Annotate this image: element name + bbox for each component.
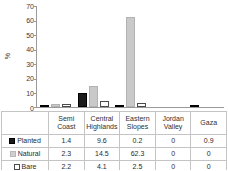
cell-bare-central-highlands: 4.1 [84,161,120,171]
y-tick-label-40: 40 [16,46,34,53]
cell-planted-eastern-slopes: 0.2 [120,135,156,148]
bar-bare-eastern-slopes [137,103,146,107]
cell-bare-jordan-valley: 0 [155,161,191,171]
table-header-gaza: Gaza [191,112,227,135]
y-axis-tick-labels: 70 60 50 40 30 20 10 0 [16,6,34,108]
table-header-line-2: Slopes [120,123,155,132]
bar-natural-eastern-slopes [126,17,135,107]
bar-natural-semi-coast [51,104,60,107]
y-tick-label-50: 50 [16,32,34,39]
bar-chart: % 70 60 50 40 30 20 10 0 [0,0,228,112]
table-header-line-1: Gaza [191,119,226,128]
cell-natural-jordan-valley: 0 [155,148,191,161]
natural-swatch-icon [10,151,16,157]
table-header-line-1: Central [85,115,120,124]
table-header-line-1: Jordan [156,115,191,124]
bare-swatch-icon [14,164,20,170]
legend-cell-bare: Bare [2,161,49,171]
table-header-line-2: Highlands [85,123,120,132]
y-tick-label-30: 30 [16,61,34,68]
y-tick-label-20: 20 [16,75,34,82]
y-tick-label-60: 60 [16,17,34,24]
table-header-eastern-slopes: Eastern Slopes [120,112,156,135]
legend-label-bare: Bare [22,163,37,170]
table-header-line-1: Semi [49,115,84,124]
table-header-jordan-valley: Jordan Valley [155,112,191,135]
x-axis-line [36,107,224,108]
cell-planted-jordan-valley: 0 [155,135,191,148]
chart-page: % 70 60 50 40 30 20 10 0 [0,0,228,170]
table-header-central-highlands: Central Highlands [84,112,120,135]
planted-swatch-icon [9,138,15,144]
y-tick-label-10: 10 [16,90,34,97]
legend-label-planted: Planted [17,137,41,144]
table-row: Bare 2.2 4.1 2.5 0 0 [2,161,227,171]
legend-label-natural: Natural [18,150,41,157]
cell-natural-eastern-slopes: 62.3 [120,148,156,161]
table-header-row: Semi Coast Central Highlands Eastern Slo… [2,112,227,135]
cell-bare-semi-coast: 2.2 [49,161,85,171]
table-row: Planted 1.4 9.6 0.2 0 0.9 [2,135,227,148]
bar-group-gaza [187,6,224,107]
cell-bare-gaza: 0 [191,161,227,171]
bar-group-eastern-slopes [112,6,149,107]
bar-group-jordan-valley [149,6,186,107]
table-corner-cell [2,112,49,135]
bar-natural-central-highlands [89,86,98,107]
table-header-line-1: Eastern [120,115,155,124]
bar-groups [37,6,224,107]
bar-planted-eastern-slopes [115,105,124,107]
y-tick-label-70: 70 [16,3,34,10]
table-header-line-2: Coast [49,123,84,132]
bar-group-central-highlands [74,6,111,107]
bar-planted-gaza [190,105,199,107]
legend-cell-planted: Planted [2,135,49,148]
data-table: Semi Coast Central Highlands Eastern Slo… [1,111,227,170]
table-header-semi-coast: Semi Coast [49,112,85,135]
legend-cell-natural: Natural [2,148,49,161]
bar-planted-semi-coast [40,105,49,107]
bar-planted-central-highlands [78,93,87,107]
plot-area [36,6,224,108]
cell-natural-central-highlands: 14.5 [84,148,120,161]
bar-bare-central-highlands [100,101,109,107]
cell-planted-semi-coast: 1.4 [49,135,85,148]
table-header-line-2: Valley [156,123,191,132]
table-row: Natural 2.3 14.5 62.3 0 0 [2,148,227,161]
cell-planted-gaza: 0.9 [191,135,227,148]
cell-natural-gaza: 0 [191,148,227,161]
bar-bare-semi-coast [62,104,71,107]
cell-planted-central-highlands: 9.6 [84,135,120,148]
cell-bare-eastern-slopes: 2.5 [120,161,156,171]
table-body: Planted 1.4 9.6 0.2 0 0.9 Natural 2.3 14… [2,135,227,171]
bar-group-semi-coast [37,6,74,107]
cell-natural-semi-coast: 2.3 [49,148,85,161]
